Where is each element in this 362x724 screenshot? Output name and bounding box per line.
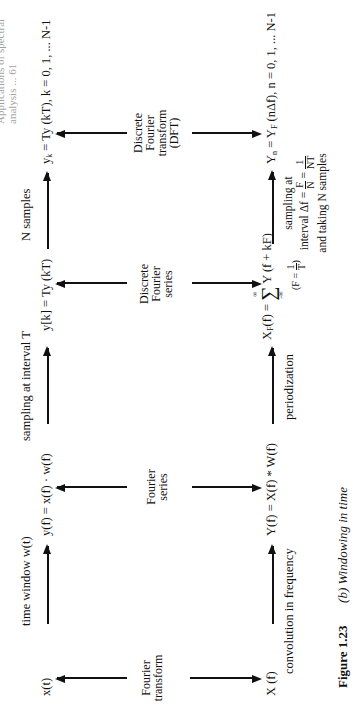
figure-canvas: Applications of spectral analysis ... 61…	[0, 0, 362, 724]
figure-caption: Figure 1.23 (b) Windowing in time	[335, 487, 351, 688]
arrow-convolution	[272, 546, 274, 624]
label-convolution: convolution in frequency	[283, 548, 296, 674]
caption-text: (b) Windowing in time	[335, 487, 350, 603]
X-sub-F-sum: XF(f) = ∑∞-∞ Y (f + kF)	[258, 233, 278, 340]
arrow-col4-up	[57, 133, 127, 135]
y-sub-k: yk = Ty (kT), k = 0, 1, ... N-1	[40, 20, 54, 164]
arrowhead-col2-down	[252, 484, 262, 492]
arrow-col1-up	[57, 678, 127, 680]
arrow-periodization	[272, 348, 274, 424]
arrowhead-col4-down	[252, 130, 262, 138]
x-of-t: x(t)	[40, 678, 53, 696]
arrowhead-col4-up	[55, 130, 65, 138]
y-of-f-time: y(f) = x(f) · w(f)	[40, 453, 53, 536]
arrowhead-col3-up	[55, 280, 65, 288]
arrow-n-samples	[47, 173, 49, 249]
label-sampling-interval: sampling at interval T	[20, 331, 33, 441]
Y-sub-n: Yn = YF (nΔf), n = 0, 1, ... N-1	[265, 12, 279, 164]
arrow-col1-down	[190, 678, 254, 680]
summation-symbol: ∑∞-∞	[258, 286, 278, 300]
arrow-col2-up	[57, 487, 127, 489]
label-time-window: time window w(t)	[20, 536, 33, 626]
arrow-time-window	[47, 546, 49, 624]
label-dft: Discrete Fourier transform (DFT)	[132, 102, 180, 164]
y-bracket-k: y[k] = Ty (kT)	[40, 259, 53, 331]
arrow-col4-down	[192, 133, 254, 135]
arrow-sampling-frequency	[272, 172, 274, 244]
arrowhead-col1-up	[55, 675, 65, 683]
arrow-col3-down	[192, 283, 254, 285]
running-header: Applications of spectral analysis ... 61	[0, 0, 18, 124]
arrow-col2-down	[192, 487, 254, 489]
arrowhead-col2-up	[55, 484, 65, 492]
label-fourier-transform: Fourier transform	[140, 652, 164, 704]
Y-of-f-freq: Y(f) = X(f) * W(f)	[265, 443, 278, 536]
arrow-col3-up	[57, 283, 127, 285]
X-of-f: X (f)	[265, 671, 278, 696]
arrow-sampling-interval	[47, 348, 49, 424]
label-discrete-fourier-series: Discrete Fourier series	[138, 254, 174, 314]
label-n-samples: N samples	[20, 189, 33, 241]
label-fourier-series: Fourier series	[145, 462, 169, 512]
label-periodization: periodization	[283, 354, 296, 420]
arrowhead-col1-down	[252, 675, 262, 683]
label-sampling-frequency: sampling at interval Δf = FN = 1NT and t…	[282, 138, 329, 268]
figure-number: Figure 1.23	[335, 625, 350, 688]
